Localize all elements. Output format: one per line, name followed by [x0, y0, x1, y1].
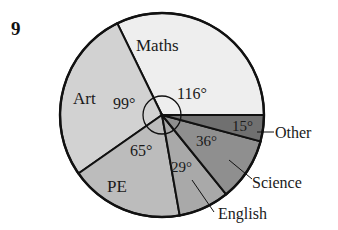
angle-science: 36° [196, 133, 217, 149]
label-other: Other [275, 124, 312, 141]
angle-pe: 65° [130, 142, 152, 159]
label-science: Science [252, 174, 302, 191]
label-english: English [218, 205, 267, 223]
pie-chart: Maths Art PE English Science Other 116° … [0, 0, 338, 230]
angle-english: 29° [171, 159, 192, 175]
label-pe: PE [107, 177, 127, 196]
angle-art: 99° [113, 95, 135, 112]
label-art: Art [73, 89, 96, 108]
angle-other: 15° [232, 118, 253, 134]
label-maths: Maths [136, 36, 179, 55]
angle-maths: 116° [177, 85, 207, 102]
